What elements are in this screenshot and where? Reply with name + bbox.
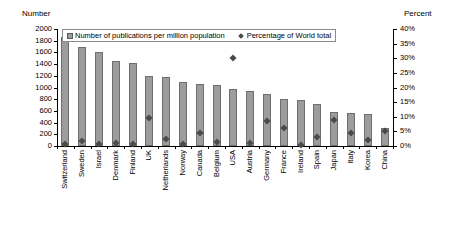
category-label: Denmark: [111, 150, 121, 180]
legend-entry: Percentage of World total: [237, 31, 332, 40]
right-axis-tick-mark: [394, 117, 397, 118]
category-tick-mark: [376, 146, 377, 149]
data-point-marker: [230, 55, 237, 62]
category-label: Korea: [363, 150, 373, 170]
left-axis-tick-label: 600: [39, 107, 52, 115]
left-axis-tick-mark: [54, 76, 57, 77]
right-axis-tick-label: 10%: [400, 113, 415, 121]
category-label: Netherlands: [161, 150, 171, 190]
legend-label: Percentage of World total: [247, 31, 332, 40]
category-label: Italy: [346, 150, 356, 164]
data-point-marker: [163, 135, 170, 142]
category-tick-mark: [57, 146, 58, 149]
left-axis-tick-label: 1200: [35, 72, 52, 80]
category-tick-mark: [208, 146, 209, 149]
left-axis-tick-mark: [54, 123, 57, 124]
right-axis-tick-label: 25%: [400, 69, 415, 77]
left-axis-tick-label: 400: [39, 119, 52, 127]
category-tick-mark: [175, 146, 176, 149]
data-point-marker: [331, 116, 338, 123]
chart-container: Number Percent 0200400600800100012001400…: [0, 0, 450, 225]
category-label: UK: [144, 150, 154, 160]
legend-entry: Number of publications per million popul…: [67, 31, 225, 40]
category-tick-mark: [158, 146, 159, 149]
right-axis-tick-labels: 0%5%10%15%20%25%30%35%40%: [400, 0, 430, 225]
data-point-marker: [280, 125, 287, 132]
category-tick-mark: [141, 146, 142, 149]
data-point-marker: [79, 137, 86, 144]
category-tick-mark: [124, 146, 125, 149]
category-tick-mark: [326, 146, 327, 149]
right-axis-tick-mark: [394, 102, 397, 103]
category-label: France: [279, 150, 289, 173]
category-tick-mark: [225, 146, 226, 149]
right-axis-tick-mark: [394, 58, 397, 59]
category-label: Israel: [94, 150, 104, 168]
category-label: Norway: [178, 150, 188, 175]
category-tick-mark: [259, 146, 260, 149]
category-tick-mark: [242, 146, 243, 149]
category-tick-mark: [343, 146, 344, 149]
right-axis-tick-mark: [394, 44, 397, 45]
data-point-marker: [314, 134, 321, 141]
category-label: Switzerland: [60, 150, 70, 189]
right-axis-tick-label: 5%: [400, 127, 411, 135]
category-label: Ireland: [296, 150, 306, 173]
category-tick-mark: [309, 146, 310, 149]
data-point-marker: [381, 128, 388, 135]
left-axis-tick-mark: [54, 29, 57, 30]
left-axis-tick-label: 1600: [35, 48, 52, 56]
left-axis-tick-label: 200: [39, 130, 52, 138]
left-axis-tick-mark: [54, 52, 57, 53]
category-label: Spain: [312, 150, 322, 169]
category-label: Canada: [195, 150, 205, 176]
right-axis-tick-label: 15%: [400, 98, 415, 106]
left-axis-tick-label: 0: [48, 142, 52, 150]
category-label: USA: [228, 150, 238, 165]
category-label: Germany: [262, 150, 272, 181]
right-axis-tick-mark: [394, 131, 397, 132]
data-point-marker: [213, 139, 220, 146]
category-label: Finland: [128, 150, 138, 175]
right-axis-tick-mark: [394, 29, 397, 30]
left-axis-tick-labels: 0200400600800100012001400160018002000: [26, 0, 52, 225]
category-label: Belgium: [212, 150, 222, 177]
category-label: Japan: [329, 150, 339, 170]
category-label: Sweden: [77, 150, 87, 177]
data-point-marker: [146, 115, 153, 122]
right-axis-tick-label: 30%: [400, 54, 415, 62]
left-axis-tick-mark: [54, 134, 57, 135]
marker-series: [57, 29, 393, 146]
right-axis-tick-label: 20%: [400, 84, 415, 92]
left-axis-tick-label: 1400: [35, 60, 52, 68]
left-axis-tick-mark: [54, 88, 57, 89]
left-axis-tick-mark: [54, 64, 57, 65]
category-tick-mark: [275, 146, 276, 149]
data-point-marker: [347, 129, 354, 136]
data-point-marker: [196, 129, 203, 136]
right-axis-tick-mark: [394, 73, 397, 74]
right-axis-tick-mark: [394, 88, 397, 89]
category-label: Austria: [245, 150, 255, 173]
legend-label: Number of publications per million popul…: [75, 31, 225, 40]
data-point-marker: [263, 118, 270, 125]
category-tick-mark: [91, 146, 92, 149]
right-axis-tick-label: 35%: [400, 40, 415, 48]
right-axis-tick-label: 0%: [400, 142, 411, 150]
legend-bar-swatch-icon: [67, 33, 73, 39]
right-axis-tick-label: 40%: [400, 25, 415, 33]
category-tick-mark: [191, 146, 192, 149]
left-axis-tick-label: 800: [39, 95, 52, 103]
category-tick-mark: [359, 146, 360, 149]
left-axis-tick-mark: [54, 146, 57, 147]
left-axis-tick-mark: [54, 111, 57, 112]
legend-diamond-swatch-icon: [238, 33, 244, 39]
category-labels: SwitzerlandSwedenIsraelDenmarkFinlandUKN…: [57, 150, 393, 220]
left-axis-tick-label: 1000: [35, 84, 52, 92]
category-tick-mark: [107, 146, 108, 149]
left-axis-tick-label: 1800: [35, 37, 52, 45]
left-axis-tick-mark: [54, 41, 57, 42]
category-tick-mark: [74, 146, 75, 149]
category-tick-mark: [292, 146, 293, 149]
chart-legend: Number of publications per million popul…: [62, 29, 336, 42]
